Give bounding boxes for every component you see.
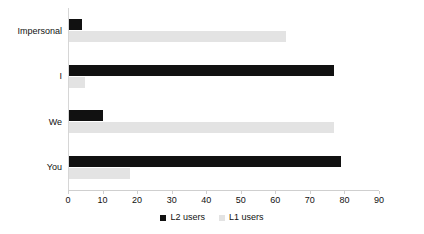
bar-track bbox=[68, 65, 379, 76]
bar-l2-users-i bbox=[68, 65, 334, 76]
bar-l2-users-impersonal bbox=[68, 19, 82, 30]
x-tick-mark bbox=[137, 191, 138, 194]
bar-track bbox=[68, 168, 379, 179]
bar-track bbox=[68, 77, 379, 88]
bar-l1-users-we bbox=[68, 122, 334, 133]
legend-label: L2 users bbox=[170, 212, 205, 223]
x-tick-mark bbox=[379, 191, 380, 194]
x-tick-mark bbox=[103, 191, 104, 194]
legend-item[interactable]: L2 users bbox=[160, 212, 205, 223]
x-tick-label: 0 bbox=[56, 195, 80, 206]
x-tick-label: 90 bbox=[367, 195, 391, 206]
x-tick-label: 60 bbox=[263, 195, 287, 206]
x-tick-label: 70 bbox=[298, 195, 322, 206]
x-tick-label: 50 bbox=[229, 195, 253, 206]
bar-group bbox=[68, 19, 379, 42]
bar-track bbox=[68, 110, 379, 121]
bar-l2-users-we bbox=[68, 110, 103, 121]
x-tick-label: 30 bbox=[160, 195, 184, 206]
bar-group bbox=[68, 65, 379, 88]
x-tick-mark bbox=[206, 191, 207, 194]
x-tick-mark bbox=[241, 191, 242, 194]
bar-chart: L2 usersL1 users ImpersonalIWeYou0102030… bbox=[0, 0, 424, 234]
legend-item[interactable]: L1 users bbox=[219, 212, 264, 223]
x-tick-mark bbox=[172, 191, 173, 194]
bar-l1-users-impersonal bbox=[68, 31, 286, 42]
bar-track bbox=[68, 156, 379, 167]
category-label-i: I bbox=[0, 71, 62, 81]
bar-l1-users-you bbox=[68, 168, 130, 179]
bar-group bbox=[68, 156, 379, 179]
x-tick-label: 80 bbox=[332, 195, 356, 206]
x-tick-mark bbox=[310, 191, 311, 194]
x-tick-mark bbox=[68, 191, 69, 194]
bar-group bbox=[68, 110, 379, 133]
x-tick-mark bbox=[344, 191, 345, 194]
bar-track bbox=[68, 122, 379, 133]
bar-track bbox=[68, 19, 379, 30]
category-label-you: You bbox=[0, 162, 62, 172]
light-gray-square-swatch-icon bbox=[219, 215, 225, 221]
bar-track bbox=[68, 31, 379, 42]
x-axis-line bbox=[68, 190, 379, 191]
x-tick-label: 40 bbox=[194, 195, 218, 206]
chart-legend: L2 usersL1 users bbox=[0, 212, 424, 223]
bar-l1-users-i bbox=[68, 77, 85, 88]
black-square-swatch-icon bbox=[160, 215, 166, 221]
y-axis-line bbox=[68, 8, 69, 190]
x-tick-label: 10 bbox=[91, 195, 115, 206]
category-label-impersonal: Impersonal bbox=[0, 26, 62, 36]
bar-l2-users-you bbox=[68, 156, 341, 167]
plot-area bbox=[68, 8, 379, 190]
category-label-we: We bbox=[0, 117, 62, 127]
x-tick-label: 20 bbox=[125, 195, 149, 206]
x-tick-mark bbox=[275, 191, 276, 194]
legend-label: L1 users bbox=[229, 212, 264, 223]
